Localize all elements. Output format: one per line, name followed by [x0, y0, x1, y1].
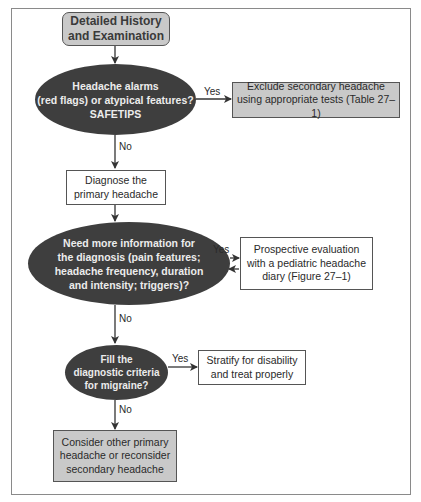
prospective-eval-node: Prospective evaluation with a pediatric …	[240, 237, 373, 290]
diagnose-primary-node: Diagnose the primary headache	[66, 170, 166, 205]
prospective-eval-text: Prospective evaluation with a pediatric …	[247, 243, 366, 284]
decision-more-info: Need more information for the diagnosis …	[28, 222, 230, 305]
decision-migraine: Fill the diagnostic criteria for migrain…	[65, 345, 168, 400]
edge-label-no-migraine: No	[119, 404, 132, 415]
edge-label-no-alarms: No	[119, 141, 132, 152]
consider-other-text: Consider other primary headache or recon…	[60, 436, 170, 477]
decision-alarms-text: Headache alarms (red flags) or atypical …	[37, 79, 193, 121]
exclude-secondary-node: Exclude secondary headache using appropr…	[232, 82, 400, 118]
decision-alarms: Headache alarms (red flags) or atypical …	[35, 64, 196, 135]
decision-migraine-text: Fill the diagnostic criteria for migrain…	[73, 353, 159, 392]
diagnose-primary-text: Diagnose the primary headache	[74, 174, 158, 201]
edge-label-yes-more-info: Yes	[213, 244, 229, 255]
edge-label-yes-migraine: Yes	[172, 353, 188, 364]
edge-label-yes-alarms: Yes	[204, 86, 220, 97]
stratify-node: Stratify for disability and treat proper…	[198, 350, 306, 385]
decision-more-info-text: Need more information for the diagnosis …	[55, 236, 204, 292]
stratify-text: Stratify for disability and treat proper…	[206, 354, 297, 381]
start-node-text: Detailed History and Examination	[68, 14, 164, 44]
exclude-secondary-text: Exclude secondary headache using appropr…	[233, 80, 399, 121]
consider-other-node: Consider other primary headache or recon…	[53, 430, 177, 482]
edge-label-no-more-info: No	[119, 313, 132, 324]
start-node: Detailed History and Examination	[62, 12, 170, 46]
